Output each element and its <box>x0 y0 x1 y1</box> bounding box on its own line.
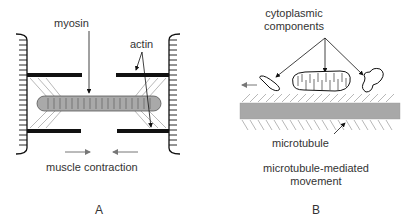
right-z-disc <box>169 34 180 154</box>
actin-pointer-arrow-upper <box>136 52 142 70</box>
microtubule-associated-hatch-top <box>242 94 394 102</box>
vesicle-component <box>260 76 280 91</box>
components-label-line1: cytoplasmic <box>265 7 323 19</box>
components-label-line2: components <box>264 20 324 32</box>
actin-label: actin <box>130 38 153 50</box>
left-z-disc <box>16 34 27 154</box>
microtubule-caption-line1: microtubule-mediated <box>263 162 369 174</box>
microtubule-caption-line2: movement <box>290 175 341 187</box>
microtubule-associated-hatch-bottom <box>242 120 392 130</box>
panel-a-muscle-contraction: myosin actin muscle contraction A <box>16 17 180 217</box>
myosin-filament <box>37 96 161 111</box>
organelle-component <box>362 68 383 92</box>
microtubule <box>240 103 400 119</box>
panel-a-label: A <box>95 203 103 217</box>
panel-b-label: B <box>312 203 320 217</box>
muscle-contraction-caption: muscle contraction <box>46 161 138 173</box>
diagram-canvas: myosin actin muscle contraction A cytopl… <box>0 0 405 222</box>
microtubule-label: microtubule <box>272 137 329 149</box>
actin-pointer-arrow-lower <box>142 52 151 127</box>
mitochondrion-component <box>293 71 351 91</box>
panel-b-microtubule-movement: cytoplasmic components <box>240 7 400 217</box>
myosin-label: myosin <box>54 17 89 29</box>
